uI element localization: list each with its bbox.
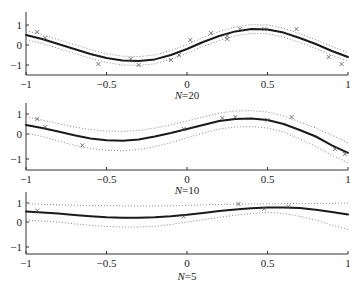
x-tick-label: 0 <box>184 257 190 269</box>
panel-n5: −1−0.500.51−101N=5 <box>10 192 350 282</box>
upper-confidence-band <box>26 111 348 143</box>
observation-x-marker <box>177 53 181 57</box>
y-tick-label: 0 <box>17 128 23 140</box>
observation-x-marker <box>220 116 224 120</box>
y-tick-label: 1 <box>17 108 23 120</box>
y-tick-label: 1 <box>17 19 23 31</box>
observation-x-marker <box>343 152 347 156</box>
observation-x-marker <box>96 62 100 66</box>
mean-curve <box>26 119 348 153</box>
observation-x-marker <box>340 62 344 66</box>
figure: −1−0.500.51−101N=20 −1−0.500.51−101N=10 … <box>0 0 361 292</box>
observation-x-marker <box>290 115 294 119</box>
x-tick-label: −1 <box>20 78 32 90</box>
x-tick-label: −1 <box>20 173 32 185</box>
observation-x-marker <box>327 55 331 59</box>
x-tick-label: −0.5 <box>97 78 117 90</box>
y-tick-label: 0 <box>17 216 23 228</box>
y-tick-label: −1 <box>10 59 22 71</box>
lower-confidence-band <box>26 127 348 163</box>
upper-confidence-band <box>26 203 348 206</box>
x-tick-label: 1 <box>345 257 351 269</box>
x-tick-label: −0.5 <box>97 257 117 269</box>
panel-n20: −1−0.500.51−101N=20 <box>10 12 350 101</box>
x-tick-label: 1 <box>345 78 351 90</box>
y-tick-label: −1 <box>10 153 22 165</box>
x-tick-label: 1 <box>345 173 351 185</box>
chart-canvas: −1−0.500.51−101N=20 −1−0.500.51−101N=10 … <box>0 0 361 292</box>
x-tick-label: 0.5 <box>261 78 275 90</box>
panel-n10: −1−0.500.51−101N=10 <box>10 103 350 196</box>
x-tick-label: 0.5 <box>261 257 275 269</box>
upper-confidence-band <box>26 25 348 57</box>
observation-x-marker <box>80 143 84 147</box>
x-axis-label: N=20 <box>174 89 200 101</box>
x-axis-label: N=10 <box>174 184 200 196</box>
y-tick-label: 0 <box>17 39 23 51</box>
mean-curve <box>26 207 348 217</box>
observation-x-marker <box>294 27 298 31</box>
x-tick-label: −1 <box>20 257 32 269</box>
observation-x-marker <box>35 30 39 34</box>
x-tick-label: 0.5 <box>261 173 275 185</box>
observation-x-marker <box>188 38 192 42</box>
y-tick-label: 1 <box>17 197 23 209</box>
x-tick-label: −0.5 <box>97 173 117 185</box>
x-axis-label: N=5 <box>176 270 197 282</box>
y-tick-label: −1 <box>10 241 22 253</box>
mean-curve <box>26 29 348 61</box>
